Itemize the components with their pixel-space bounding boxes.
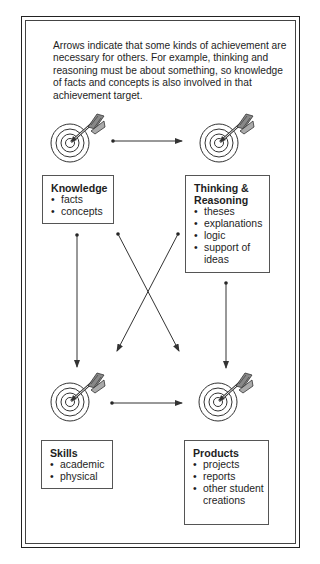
node-title: Skills — [50, 447, 108, 459]
arrow-knowledge-to-skills — [75, 233, 79, 367]
node-items: facts concepts — [51, 194, 109, 218]
node-title: Products — [193, 447, 264, 459]
list-item: projects — [193, 459, 264, 471]
node-title: Knowledge — [51, 182, 109, 194]
node-items: academic physical — [50, 459, 108, 483]
target-icon-thinking — [200, 114, 254, 162]
node-items: theses explanations logic support of ide… — [194, 206, 265, 266]
node-items: projects reports other student creations — [193, 459, 264, 507]
arrow-knowledge-to-thinking — [111, 139, 182, 143]
list-item: logic — [194, 230, 265, 242]
list-item: concepts — [51, 206, 109, 218]
list-item: other student creations — [193, 483, 264, 507]
list-item: support of ideas — [194, 242, 265, 266]
list-item: theses — [194, 206, 265, 218]
arrow-thinking-to-products — [224, 281, 228, 368]
list-item: academic — [50, 459, 108, 471]
arrow-skills-to-products — [110, 401, 182, 405]
node-thinking-reasoning: Thinking & Reasoning theses explanations… — [185, 175, 270, 273]
target-icon-knowledge — [51, 114, 105, 162]
node-title: Thinking & Reasoning — [194, 182, 265, 206]
list-item: physical — [50, 471, 108, 483]
target-icon-products — [199, 373, 253, 421]
list-item: facts — [51, 194, 109, 206]
list-item: explanations — [194, 218, 265, 230]
node-skills: Skills academic physical — [41, 440, 113, 489]
node-products: Products projects reports other student … — [184, 440, 269, 525]
node-knowledge: Knowledge facts concepts — [42, 175, 114, 224]
target-icon-skills — [51, 373, 105, 421]
list-item: reports — [193, 471, 264, 483]
